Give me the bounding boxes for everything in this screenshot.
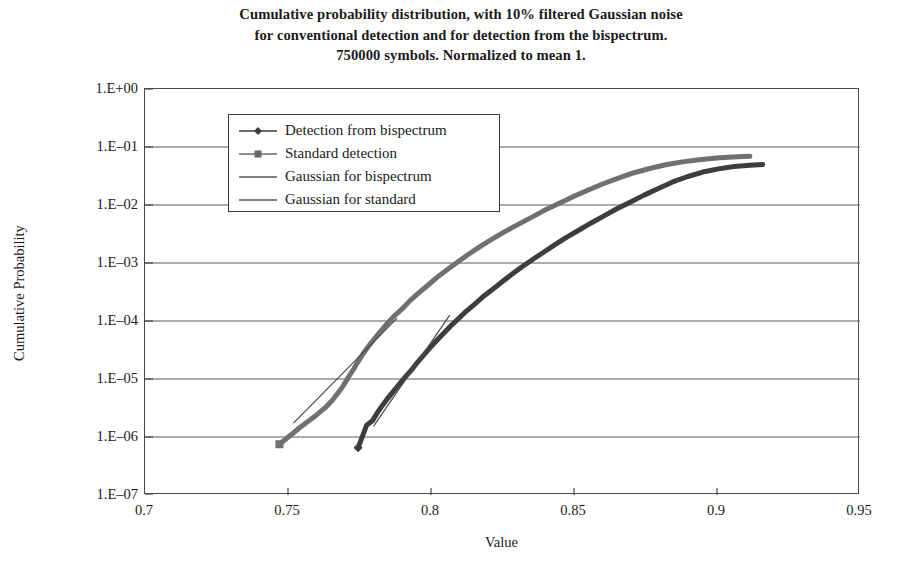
x-tick-label: 0.75 (252, 502, 322, 519)
y-axis-tick-labels: 1.E+001.E–011.E–021.E–031.E–041.E–051.E–… (48, 0, 138, 584)
legend-item[interactable]: Gaussian for bispectrum (229, 165, 499, 188)
y-tick-label: 1.E–01 (54, 139, 138, 153)
legend-key-square (255, 150, 262, 157)
chart-title: Cumulative probability distribution, wit… (0, 4, 922, 66)
y-tick-label: 1.E–03 (54, 255, 138, 269)
legend-item-label: Gaussian for bispectrum (285, 169, 432, 184)
series-line-gaussian-for-bispectrum (374, 315, 450, 426)
series-start-marker-square (275, 440, 283, 448)
y-axis-title: Cumulative Probability (6, 88, 32, 498)
chart-title-line-2: for conventional detection and for detec… (0, 25, 922, 46)
x-tick-label: 0.85 (538, 502, 608, 519)
chart-title-line-1: Cumulative probability distribution, wit… (0, 4, 922, 25)
line-marker-icon (237, 170, 279, 184)
line-marker-icon (237, 193, 279, 207)
legend-item-label: Gaussian for standard (285, 192, 416, 207)
x-axis-title: Value (144, 534, 859, 551)
y-tick-label: 1.E–06 (54, 429, 138, 443)
legend-item[interactable]: Standard detection (229, 142, 499, 165)
legend-item-label: Standard detection (285, 146, 397, 161)
chart-figure: Cumulative probability distribution, wit… (0, 0, 922, 584)
y-tick-label: 1.E–02 (54, 197, 138, 211)
legend-item-label: Detection from bispectrum (285, 123, 447, 138)
y-tick-label: 1.E–04 (54, 313, 138, 327)
x-tick-label: 0.95 (824, 502, 894, 519)
diamond-marker-icon (237, 124, 279, 138)
square-marker-icon (237, 147, 279, 161)
y-tick-label: 1.E–05 (54, 371, 138, 385)
y-tick-label: 1.E+00 (54, 81, 138, 95)
x-tick-label: 0.9 (681, 502, 751, 519)
chart-title-line-3: 750000 symbols. Normalized to mean 1. (0, 45, 922, 66)
y-tick-label: 1.E–07 (54, 487, 138, 501)
legend-key-diamond (254, 127, 262, 135)
legend-item[interactable]: Gaussian for standard (229, 188, 499, 211)
x-tick-label: 0.7 (109, 502, 179, 519)
legend-item[interactable]: Detection from bispectrum (229, 119, 499, 142)
x-tick-label: 0.8 (395, 502, 465, 519)
chart-legend: Detection from bispectrumStandard detect… (228, 114, 500, 212)
